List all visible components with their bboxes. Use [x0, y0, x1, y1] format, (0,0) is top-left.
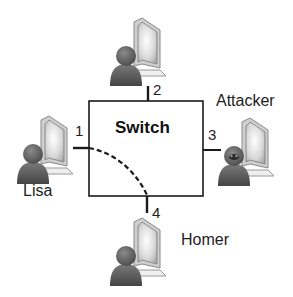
workstation-lisa-icon [17, 116, 73, 184]
lisa-label: Lisa [23, 183, 52, 199]
switch-label: Switch [115, 119, 170, 136]
port-2-label: 2 [153, 82, 161, 97]
network-diagram [0, 0, 293, 297]
workstation-homer-icon [110, 218, 166, 286]
workstation-attacker-icon [218, 118, 274, 186]
port-3-label: 3 [208, 127, 216, 142]
homer-label: Homer [181, 232, 229, 248]
switch-box [89, 101, 203, 196]
attacker-label: Attacker [216, 93, 275, 109]
workstation-top-icon [110, 18, 166, 86]
port-1-label: 1 [75, 123, 83, 138]
port-4-label: 4 [152, 205, 160, 220]
